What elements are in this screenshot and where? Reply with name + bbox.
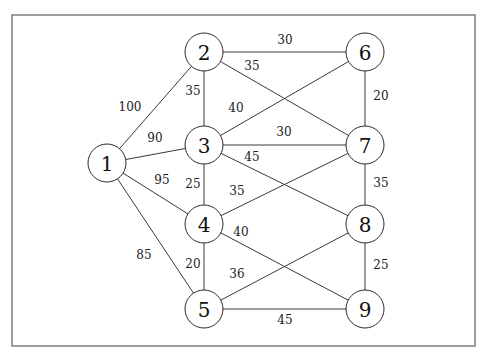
node-7: 7 — [346, 126, 384, 164]
edge-weight-label: 45 — [244, 150, 259, 164]
edge-weight-label: 90 — [147, 131, 162, 145]
node-label: 9 — [359, 298, 372, 322]
node-1: 1 — [88, 144, 126, 182]
edge-weight-label: 20 — [373, 89, 388, 103]
node-label: 8 — [359, 213, 372, 237]
edge-weight-label: 85 — [136, 248, 151, 262]
edge-weight-label: 35 — [373, 176, 388, 190]
graph-diagram: 100909585353035403045253540203645203525 … — [0, 0, 488, 350]
node-label: 6 — [359, 41, 372, 65]
edge-weight-label: 20 — [185, 257, 200, 271]
edge-weight-label: 40 — [233, 225, 248, 239]
node-8: 8 — [346, 205, 384, 243]
edge-weight-label: 35 — [229, 184, 244, 198]
edge-weight-label: 35 — [185, 84, 200, 98]
node-4: 4 — [185, 205, 223, 243]
node-6: 6 — [346, 33, 384, 71]
node-5: 5 — [185, 290, 223, 328]
node-label: 5 — [198, 298, 211, 322]
edge-weight-label: 35 — [244, 59, 259, 73]
node-label: 7 — [359, 134, 372, 158]
edge-weight-label: 30 — [276, 125, 291, 139]
node-label: 3 — [198, 134, 211, 158]
edge-weight-label: 36 — [229, 267, 244, 281]
edge-weight-label: 25 — [185, 177, 200, 191]
edge-weight-label: 45 — [277, 313, 292, 327]
node-3: 3 — [185, 126, 223, 164]
node-layer: 123456789 — [88, 33, 384, 328]
edge-weight-label: 40 — [228, 101, 243, 115]
node-label: 1 — [101, 152, 114, 176]
edge-weight-label: 25 — [373, 258, 388, 272]
node-2: 2 — [185, 33, 223, 71]
node-label: 2 — [198, 41, 211, 65]
edge-weight-label: 100 — [119, 100, 142, 114]
node-9: 9 — [346, 290, 384, 328]
edge-weight-label: 30 — [277, 33, 292, 47]
edge-weight-label: 95 — [154, 173, 169, 187]
node-label: 4 — [198, 213, 211, 237]
